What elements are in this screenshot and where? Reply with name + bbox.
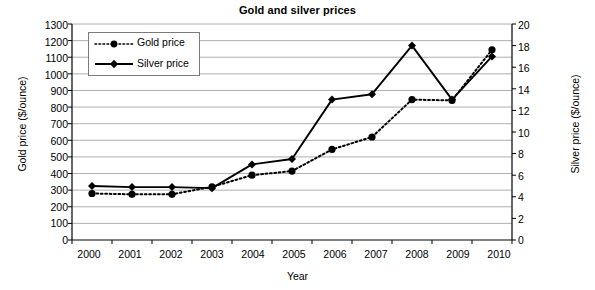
legend-label-silver: Silver price (137, 57, 189, 70)
legend-swatch-gold (93, 33, 135, 54)
legend: Gold price Silver price (88, 32, 200, 76)
chart-container: Gold and silver prices Gold price ($/oun… (0, 0, 595, 290)
legend-label-gold: Gold price (137, 36, 185, 49)
legend-item-gold: Gold price (89, 33, 199, 54)
legend-item-silver: Silver price (89, 54, 199, 75)
legend-swatch-silver (93, 54, 135, 75)
